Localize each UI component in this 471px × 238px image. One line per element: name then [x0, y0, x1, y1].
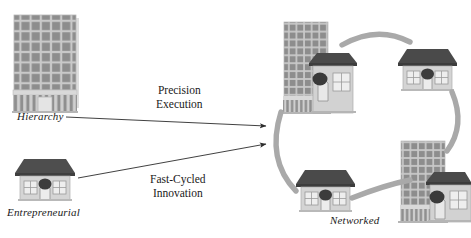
- network-ring-arcs: [276, 34, 458, 198]
- diagram-graphics-layer: [0, 0, 471, 238]
- hierarchy-tower-graphic: [12, 15, 79, 113]
- precision-execution-label-line2: Execution: [156, 97, 203, 111]
- precision-execution-label-line1: Precision: [156, 83, 203, 97]
- fast-cycled-innovation-label: Fast-Cycled Innovation: [150, 172, 206, 200]
- arc-bottom-connector: [352, 180, 410, 198]
- networked-bottom-left-graphic: [296, 170, 355, 212]
- fast-cycled-innovation-label-line2: Innovation: [150, 186, 206, 200]
- transition-arrows: [66, 117, 266, 178]
- networked-label: Networked: [330, 214, 379, 226]
- arc-top-connector: [342, 34, 410, 45]
- networked-bottom-right-graphic: [398, 141, 471, 223]
- arc-left-connector: [276, 112, 296, 191]
- hierarchy-label: Hierarchy: [17, 110, 64, 122]
- networked-top-right-graphic: [398, 49, 457, 91]
- fast-cycled-innovation-label-line1: Fast-Cycled: [150, 172, 206, 186]
- entrepreneurial-label: Entrepreneurial: [7, 206, 80, 218]
- entrepreneurial-house-graphic: [15, 159, 75, 201]
- organization-forms-diagram: Hierarchy Entrepreneurial Networked Prec…: [0, 0, 471, 238]
- networked-top-left-graphic: [281, 22, 357, 114]
- precision-execution-arrow: [66, 117, 266, 126]
- arc-right-connector: [447, 92, 458, 151]
- precision-execution-label: Precision Execution: [156, 83, 203, 111]
